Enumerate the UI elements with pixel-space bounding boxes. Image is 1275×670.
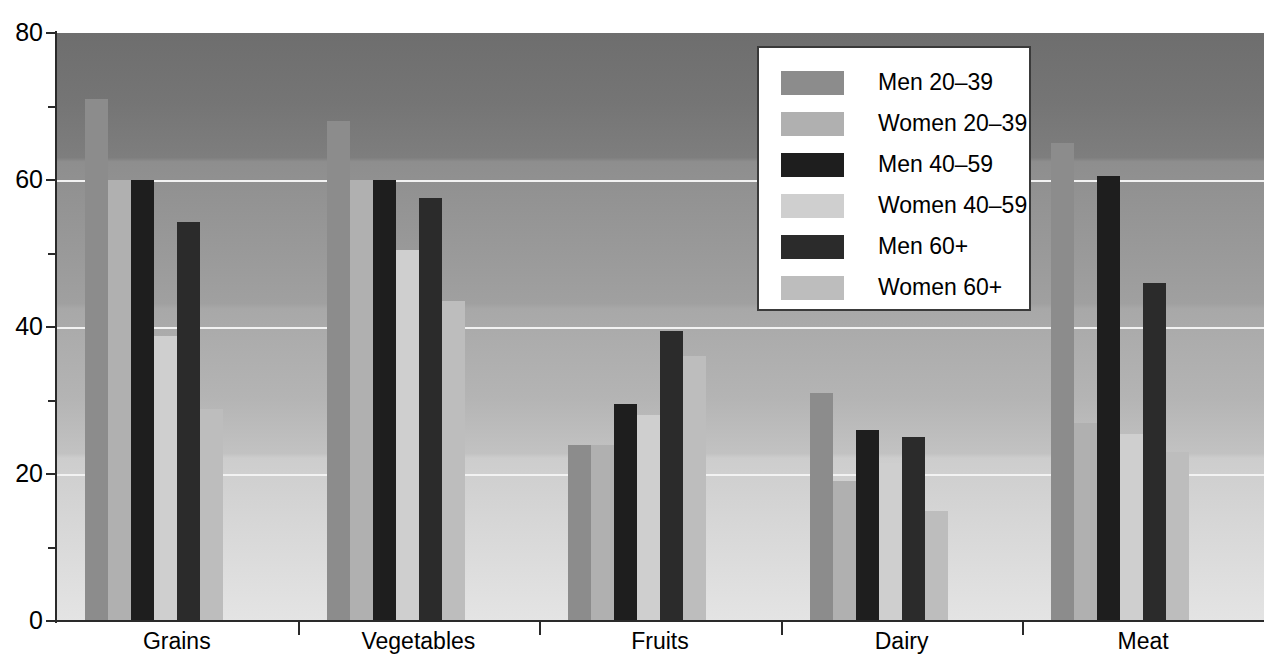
bar-fruits-women-20-39 <box>591 445 614 621</box>
bar-chart: 020406080 GrainsVegetablesFruitsDairyMea… <box>0 0 1275 670</box>
legend-swatch-icon <box>781 276 844 300</box>
y-tick-60 <box>46 179 57 181</box>
y-tick-20 <box>46 473 57 475</box>
legend-swatch-icon <box>781 235 844 259</box>
bar-meat-men-60 <box>1143 283 1166 621</box>
legend-item[interactable]: Women 60+ <box>759 267 1029 308</box>
bar-vegetables-women-40-59 <box>396 250 419 621</box>
bar-dairy-men-60 <box>902 437 925 621</box>
x-axis-label-vegetables: Vegetables <box>298 628 540 655</box>
x-axis-line <box>55 620 1264 622</box>
bar-grains-men-60 <box>177 222 200 621</box>
chart-legend: Men 20–39Women 20–39Men 40–59Women 40–59… <box>757 46 1031 311</box>
legend-swatch-icon <box>781 153 844 177</box>
bar-meat-women-20-39 <box>1074 423 1097 621</box>
bar-group-vegetables <box>298 33 540 621</box>
bar-fruits-men-40-59 <box>614 404 637 621</box>
legend-item-label: Women 20–39 <box>878 110 1027 137</box>
legend-item-label: Men 20–39 <box>878 69 993 96</box>
bar-grains-women-40-59 <box>154 336 177 621</box>
bar-meat-men-40-59 <box>1097 176 1120 621</box>
x-axis-label-meat: Meat <box>1022 628 1264 655</box>
bar-dairy-women-60 <box>925 511 948 621</box>
bar-group-grains <box>56 33 298 621</box>
legend-item-label: Men 60+ <box>878 233 968 260</box>
bar-fruits-women-60 <box>683 356 706 621</box>
bar-grains-men-20-39 <box>85 99 108 621</box>
legend-swatch-icon <box>781 71 844 95</box>
y-tick-minor-10 <box>48 547 57 549</box>
y-tick-label: 20 <box>15 461 43 486</box>
bar-meat-women-60 <box>1166 452 1189 621</box>
bar-grains-women-20-39 <box>108 180 131 621</box>
y-tick-label: 40 <box>15 314 43 339</box>
bar-meat-women-40-59 <box>1120 434 1143 621</box>
y-tick-minor-70 <box>48 106 57 108</box>
bar-meat-men-20-39 <box>1051 143 1074 621</box>
x-axis-label-dairy: Dairy <box>781 628 1023 655</box>
bar-grains-men-40-59 <box>131 180 154 621</box>
bar-vegetables-women-60 <box>442 301 465 621</box>
bar-vegetables-women-20-39 <box>350 180 373 621</box>
x-axis-label-grains: Grains <box>56 628 298 655</box>
bar-vegetables-men-40-59 <box>373 180 396 621</box>
y-tick-label: 60 <box>15 167 43 192</box>
y-tick-0 <box>46 620 57 622</box>
legend-item[interactable]: Women 20–39 <box>759 103 1029 144</box>
bar-grains-women-60 <box>200 409 223 621</box>
legend-item-label: Women 60+ <box>878 274 1002 301</box>
y-tick-minor-50 <box>48 253 57 255</box>
legend-swatch-icon <box>781 112 844 136</box>
bar-dairy-men-20-39 <box>810 393 833 621</box>
y-tick-label: 0 <box>29 608 43 633</box>
bar-dairy-women-20-39 <box>833 481 856 621</box>
bar-fruits-men-60 <box>660 331 683 621</box>
bar-group-meat <box>1022 33 1264 621</box>
bar-vegetables-men-60 <box>419 198 442 621</box>
legend-item-label: Men 40–59 <box>878 151 993 178</box>
legend-item[interactable]: Men 60+ <box>759 226 1029 267</box>
legend-item[interactable]: Women 40–59 <box>759 185 1029 226</box>
y-tick-80 <box>46 32 57 34</box>
bar-vegetables-men-20-39 <box>327 121 350 621</box>
bar-group-fruits <box>539 33 781 621</box>
y-tick-minor-30 <box>48 400 57 402</box>
y-tick-40 <box>46 326 57 328</box>
bar-fruits-women-40-59 <box>637 415 660 621</box>
plot-area <box>56 33 1264 621</box>
legend-item-label: Women 40–59 <box>878 192 1027 219</box>
legend-item[interactable]: Men 40–59 <box>759 144 1029 185</box>
legend-swatch-icon <box>781 194 844 218</box>
bar-fruits-men-20-39 <box>568 445 591 621</box>
bar-dairy-women-40-59 <box>879 463 902 621</box>
y-tick-label: 80 <box>15 20 43 45</box>
bar-dairy-men-40-59 <box>856 430 879 621</box>
legend-item[interactable]: Men 20–39 <box>759 62 1029 103</box>
x-axis-label-fruits: Fruits <box>539 628 781 655</box>
